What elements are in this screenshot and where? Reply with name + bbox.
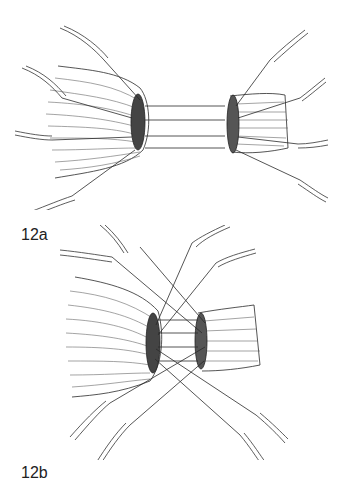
figure-12a	[0, 0, 345, 210]
figure-label-12b: 12b	[21, 464, 48, 482]
nerve-suture-illustration-b	[0, 225, 345, 460]
figure-12b	[0, 225, 345, 460]
nerve-suture-illustration-a	[0, 0, 345, 210]
